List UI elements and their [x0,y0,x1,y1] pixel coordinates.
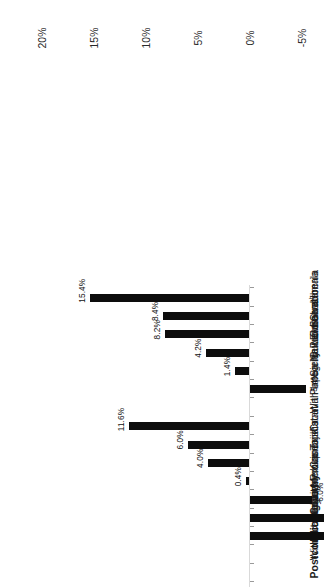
axis-tick-mark [250,361,254,362]
bar [163,312,250,320]
axis-tick-mark [250,544,254,545]
bar [188,441,250,449]
axis-tick-label: 10% [141,20,152,56]
axis-tick-mark [250,324,254,325]
bar-value-label: 11.6% [117,408,126,431]
bar-value-label: 0.4% [234,467,243,486]
bar [250,386,306,394]
bar [90,294,250,302]
axis-tick-mark [250,581,254,582]
bar [250,496,312,504]
zero-baseline [249,285,250,587]
axis-tick-mark [250,526,254,527]
bar-value-label: -5.4% [310,372,319,394]
bar-value-label: 8.4% [151,302,160,321]
bar [235,367,250,375]
rotated-figure-wrapper: Postconflict CountryWithout Integrity Pr… [0,0,324,587]
axis-tick-label: -5% [297,20,308,56]
bar-chart-figure: Postconflict CountryWithout Integrity Pr… [0,0,324,587]
bar [250,514,324,522]
axis-tick-label: 5% [193,20,204,56]
axis-tick-mark [250,287,254,288]
axis-tick-label: 20% [37,20,48,56]
axis-tick-mark [250,306,254,307]
bar [250,532,324,540]
axis-tick-mark [250,489,254,490]
bar [208,459,250,467]
bar-value-label: 1.4% [223,357,232,376]
bar-value-label: 8.2% [153,320,162,339]
bar [206,349,250,357]
bar-value-label: 4.0% [196,449,205,468]
axis-tick-mark [250,563,254,564]
axis-tick-mark [250,416,254,417]
axis-tick-label: 0% [245,20,256,56]
axis-tick-mark [250,453,254,454]
axis-tick-mark [250,398,254,399]
axis-tick-mark [250,508,254,509]
bar-value-label: 4.2% [194,339,203,358]
plot-area: -14.4%-8.6%-6.0%0.4%4.0%6.0%11.6%-5.4%1.… [0,0,324,587]
bar-value-label: 6.0% [176,430,185,449]
bar-value-label: 15.4% [78,279,87,303]
bar-value-label: -6.0% [316,482,324,504]
axis-tick-mark [250,379,254,380]
axis-tick-mark [250,342,254,343]
axis-tick-mark [250,434,254,435]
bar [165,330,250,338]
axis-tick-mark [250,471,254,472]
bar [129,422,250,430]
axis-tick-label: 15% [89,20,100,56]
